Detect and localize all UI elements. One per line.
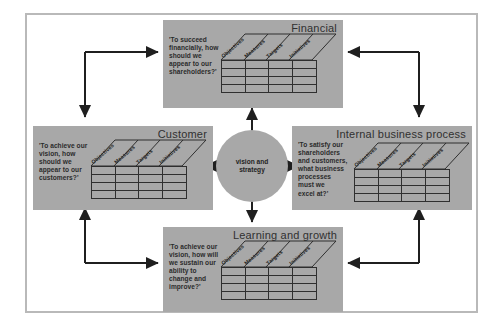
table-row[interactable] xyxy=(222,276,317,284)
scorecard-header-financial: Objectives Measures Targets Initiatives xyxy=(221,34,317,60)
table-row[interactable] xyxy=(222,292,317,300)
table-row[interactable] xyxy=(222,77,317,85)
hub-label: vision and strategy xyxy=(236,158,269,175)
table-row[interactable] xyxy=(222,268,317,276)
scorecard-grid-internal-business-process[interactable] xyxy=(354,169,450,202)
panel-question-internal-business-process: 'To satisfy our shareholders and custome… xyxy=(298,141,347,198)
table-row[interactable] xyxy=(222,284,317,292)
perspective-panel-internal-business-process[interactable]: Internal business process 'To satisfy ou… xyxy=(292,126,472,210)
scorecard-grid-learning-and-growth[interactable] xyxy=(221,267,317,300)
panel-title-learning-and-growth: Learning and growth xyxy=(233,229,337,241)
panel-question-customer: 'To achieve our vision, how should we ap… xyxy=(39,142,87,182)
scorecard-grid-financial[interactable] xyxy=(221,60,317,93)
table-row[interactable] xyxy=(355,186,450,194)
scorecard-header-internal-business-process: Objectives Measures Targets Initiatives xyxy=(354,143,450,169)
perspective-panel-learning-and-growth[interactable]: Learning and growth 'To achieve our visi… xyxy=(163,227,343,312)
panel-title-customer: Customer xyxy=(158,128,207,140)
scorecard-financial[interactable]: Objectives Measures Targets Initiatives xyxy=(221,34,317,93)
vision-and-strategy-hub[interactable]: vision and strategy xyxy=(216,130,288,202)
table-row[interactable] xyxy=(222,69,317,77)
panel-question-learning-and-growth: 'To achieve our vision, how will we sust… xyxy=(169,243,218,292)
scorecard-grid-customer[interactable] xyxy=(91,166,187,199)
perspective-panel-financial[interactable]: Financial 'To succeed financially, how s… xyxy=(163,20,343,108)
panel-question-financial: 'To succeed financially, how should we a… xyxy=(169,36,218,76)
table-row[interactable] xyxy=(92,167,187,175)
scorecard-learning-and-growth[interactable]: Objectives Measures Targets Initiatives xyxy=(221,241,317,300)
scorecard-header-learning-and-growth: Objectives Measures Targets Initiatives xyxy=(221,241,317,267)
perspective-panel-customer[interactable]: Customer 'To achieve our vision, how sho… xyxy=(33,126,213,210)
table-row[interactable] xyxy=(92,175,187,183)
table-row[interactable] xyxy=(92,191,187,199)
balanced-scorecard-diagram: Financial 'To succeed financially, how s… xyxy=(0,0,502,330)
table-row[interactable] xyxy=(355,170,450,178)
table-row[interactable] xyxy=(92,183,187,191)
scorecard-internal-business-process[interactable]: Objectives Measures Targets Initiatives xyxy=(354,143,450,202)
table-row[interactable] xyxy=(222,85,317,93)
scorecard-customer[interactable]: Objectives Measures Targets Initiatives xyxy=(91,140,187,199)
scorecard-header-customer: Objectives Measures Targets Initiatives xyxy=(91,140,187,166)
table-row[interactable] xyxy=(355,194,450,202)
panel-title-financial: Financial xyxy=(291,22,337,34)
table-row[interactable] xyxy=(222,61,317,69)
panel-title-internal-business-process: Internal business process xyxy=(336,128,466,140)
table-row[interactable] xyxy=(355,178,450,186)
